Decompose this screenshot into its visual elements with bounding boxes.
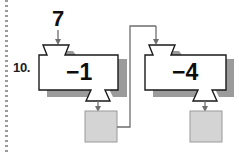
machine-1-operation-label: −1 — [66, 61, 92, 84]
output-box-2[interactable] — [190, 111, 222, 142]
output-box-1[interactable] — [85, 111, 117, 142]
function-machine-diagram — [0, 0, 239, 153]
machine-1-input-arrow — [55, 30, 61, 45]
machine-1-output-arrow — [95, 101, 101, 112]
machine-2-operation-label: −4 — [172, 61, 198, 84]
machine-2-output-arrow — [202, 101, 208, 112]
worksheet-problem-canvas: 10. 7 — [0, 0, 239, 153]
